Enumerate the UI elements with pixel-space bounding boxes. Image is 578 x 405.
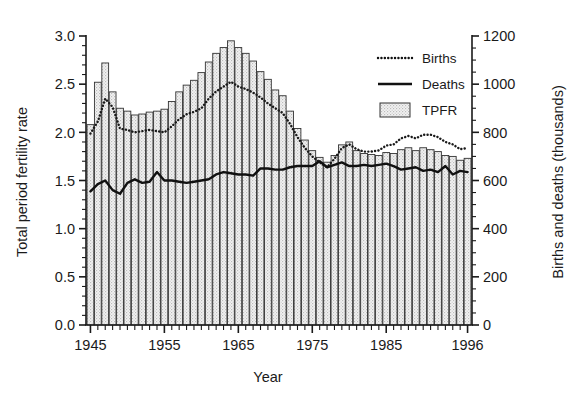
right-tick-label: 400 bbox=[483, 221, 507, 237]
tpfr-bar bbox=[309, 151, 316, 325]
legend-label: Births bbox=[422, 51, 457, 66]
tpfr-bar bbox=[449, 156, 456, 325]
tpfr-bar bbox=[124, 111, 131, 325]
tpfr-bar bbox=[301, 140, 308, 325]
x-tick-label: 1975 bbox=[296, 337, 328, 353]
x-tick-label: 1985 bbox=[370, 337, 402, 353]
tpfr-bar bbox=[464, 158, 471, 325]
tpfr-bar bbox=[242, 53, 249, 325]
tpfr-bar bbox=[250, 61, 257, 325]
chart-container: 0.00.51.01.52.02.53.0 020040060080010001… bbox=[0, 0, 578, 405]
left-tick-label: 1.0 bbox=[55, 221, 75, 237]
x-tick-label: 1965 bbox=[222, 337, 254, 353]
right-axis-title: Births and deaths (thousands) bbox=[550, 85, 566, 278]
x-tick-label: 1955 bbox=[148, 337, 180, 353]
tpfr-bar bbox=[442, 155, 449, 325]
legend-tpfr-swatch bbox=[380, 103, 410, 117]
tpfr-bar bbox=[235, 48, 242, 325]
tpfr-bar bbox=[331, 155, 338, 325]
left-tick-label: 2.5 bbox=[55, 76, 75, 92]
x-tick-label: 1996 bbox=[451, 337, 483, 353]
tpfr-bar bbox=[272, 90, 279, 325]
right-tick-label: 200 bbox=[483, 269, 507, 285]
fertility-births-deaths-chart: 0.00.51.01.52.02.53.0 020040060080010001… bbox=[0, 0, 578, 405]
right-tick-label: 1200 bbox=[483, 28, 515, 44]
tpfr-bar bbox=[109, 92, 116, 325]
tpfr-bar bbox=[427, 150, 434, 325]
tpfr-bar bbox=[265, 79, 272, 325]
x-tick-label: 1945 bbox=[74, 337, 106, 353]
tpfr-bar bbox=[161, 109, 168, 325]
legend-label: Deaths bbox=[422, 77, 465, 92]
left-axis-title: Total period fertility rate bbox=[14, 107, 30, 257]
tpfr-bar bbox=[353, 151, 360, 325]
tpfr-bar bbox=[338, 145, 345, 325]
x-axis-title: Year bbox=[253, 369, 282, 385]
tpfr-bar bbox=[346, 142, 353, 325]
tpfr-bar bbox=[154, 111, 161, 325]
tpfr-bar bbox=[375, 155, 382, 325]
tpfr-bar bbox=[117, 108, 124, 325]
tpfr-bar bbox=[405, 148, 412, 325]
tpfr-bar bbox=[316, 157, 323, 325]
tpfr-bar bbox=[257, 72, 264, 325]
tpfr-bar bbox=[420, 148, 427, 325]
tpfr-bar bbox=[368, 154, 375, 325]
tpfr-bar bbox=[457, 160, 464, 325]
tpfr-bar bbox=[87, 125, 94, 325]
tpfr-bar bbox=[435, 152, 442, 325]
tpfr-bar bbox=[168, 102, 175, 325]
right-tick-label: 800 bbox=[483, 125, 507, 141]
left-tick-label: 3.0 bbox=[55, 28, 75, 44]
tpfr-bar bbox=[191, 80, 198, 325]
left-tick-label: 0.5 bbox=[55, 269, 75, 285]
tpfr-bar bbox=[324, 162, 331, 325]
right-tick-label: 0 bbox=[483, 317, 491, 333]
tpfr-bar bbox=[361, 154, 368, 325]
left-tick-label: 1.5 bbox=[55, 173, 75, 189]
tpfr-bar bbox=[390, 154, 397, 325]
tpfr-bar bbox=[176, 92, 183, 325]
right-tick-label: 600 bbox=[483, 173, 507, 189]
tpfr-bar bbox=[412, 151, 419, 325]
right-tick-label: 1000 bbox=[483, 76, 515, 92]
tpfr-bar bbox=[398, 150, 405, 325]
tpfr-bar bbox=[287, 111, 294, 325]
tpfr-bar bbox=[294, 128, 301, 325]
left-tick-label: 0.0 bbox=[55, 317, 75, 333]
legend-label: TPFR bbox=[422, 103, 457, 118]
left-tick-label: 2.0 bbox=[55, 125, 75, 141]
tpfr-bar bbox=[139, 114, 146, 325]
tpfr-bar bbox=[383, 153, 390, 325]
tpfr-bar bbox=[183, 85, 190, 325]
tpfr-bar bbox=[146, 112, 153, 325]
tpfr-bar bbox=[279, 96, 286, 325]
tpfr-bar bbox=[131, 115, 138, 325]
